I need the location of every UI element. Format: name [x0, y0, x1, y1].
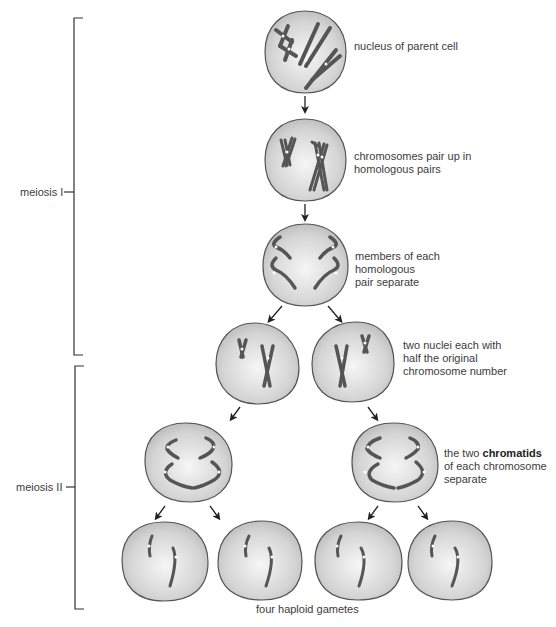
- gamete-4: [408, 521, 492, 600]
- step-parent-label: nucleus of parent cell: [354, 40, 458, 53]
- parent-nucleus-cell: [265, 11, 346, 93]
- meiosis-1-bracket: [64, 18, 83, 355]
- meiosis-2-cell-right: [352, 423, 438, 502]
- meiosis-2-bracket: [66, 366, 84, 609]
- step-separate-label: members of each homologous pair separate: [355, 250, 440, 289]
- step-chromatids-label: the two chromatids of each chromosome se…: [444, 447, 547, 486]
- gamete-2: [218, 521, 302, 600]
- arrow-down-right-icon: [328, 306, 340, 320]
- arrow-down-left-icon: [270, 306, 282, 320]
- gamete-1: [122, 522, 208, 601]
- separation-cell: [263, 224, 348, 306]
- arrow-down-left-icon: [157, 506, 165, 517]
- meiosis-2-cell-left: [145, 423, 232, 502]
- arrow-down-right-icon: [418, 506, 426, 517]
- arrow-down-right-icon: [210, 506, 218, 517]
- daughter-nucleus-left: [216, 323, 299, 404]
- step-two-nuclei-label: two nuclei each with half the original c…: [403, 339, 507, 378]
- step-pair-up-label: chromosomes pair up in homologous pairs: [354, 150, 471, 176]
- pairing-cell: [265, 119, 346, 201]
- meiosis-diagram: [0, 0, 556, 627]
- gamete-3: [315, 522, 402, 600]
- arrow-down-left-icon: [370, 506, 378, 517]
- arrow-down-right-icon: [368, 407, 376, 418]
- daughter-nucleus-right: [312, 322, 394, 402]
- arrow-down-left-icon: [232, 407, 240, 418]
- result-label: four haploid gametes: [256, 603, 359, 616]
- meiosis-2-label: meiosis II: [16, 481, 62, 494]
- meiosis-1-label: meiosis I: [20, 186, 63, 199]
